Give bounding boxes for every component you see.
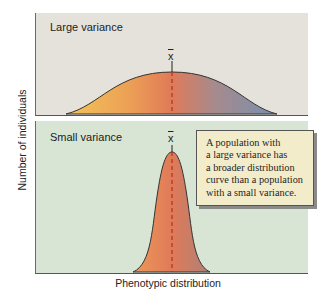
x-axis-label: Phenotypic distribution bbox=[115, 277, 221, 289]
variance-diagram: Number of individuals Large variance Sma… bbox=[0, 0, 335, 299]
callout-line: a broader distribution bbox=[206, 162, 307, 174]
callout-line: with a small variance. bbox=[206, 187, 307, 199]
callout-box: A population with a large variance has a… bbox=[196, 130, 314, 206]
mean-symbol-small: x bbox=[168, 132, 174, 144]
callout-line: A population with bbox=[206, 137, 307, 149]
mean-symbol-large: x bbox=[168, 50, 174, 62]
callout-line: curve than a population bbox=[206, 174, 307, 186]
callout-line: a large variance has bbox=[206, 149, 307, 161]
